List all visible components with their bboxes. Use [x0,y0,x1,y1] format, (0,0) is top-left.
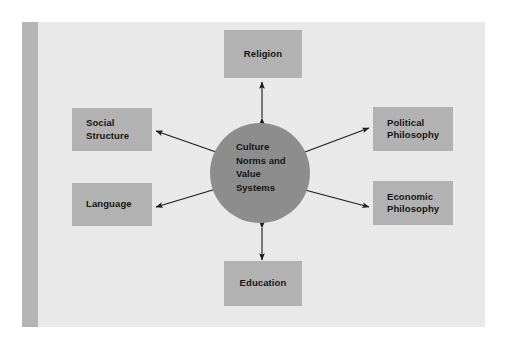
node-education: Education [224,261,302,306]
connector-center-political [305,128,369,152]
node-religion: Religion [224,30,302,78]
connector-center-social [156,131,216,152]
node-economic-philosophy-label: Economic Philosophy [373,191,439,216]
node-social-structure: Social Structure [72,108,152,151]
node-education-label: Education [224,277,302,290]
node-language-label: Language [72,198,132,211]
node-economic-philosophy: Economic Philosophy [373,181,453,225]
node-political-philosophy: Political Philosophy [373,107,453,151]
node-political-philosophy-label: Political Philosophy [373,117,439,142]
node-religion-label: Religion [224,48,302,61]
connector-center-economic [305,190,369,207]
figure-root: Culture Norms and Value Systems Religion… [0,0,508,340]
culture-norms-diagram: Culture Norms and Value Systems Religion… [0,0,508,340]
center-node-label: Culture Norms and Value Systems [236,140,308,194]
node-social-structure-label: Social Structure [72,117,129,142]
connector-center-language [156,189,216,207]
node-language: Language [72,183,152,226]
